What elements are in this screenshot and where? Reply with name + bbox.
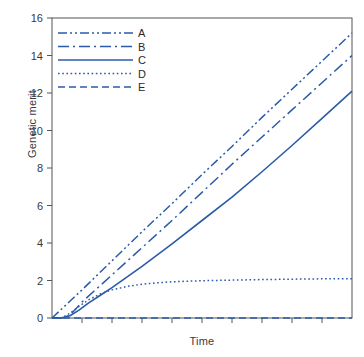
legend-label-B: B bbox=[138, 41, 145, 53]
y-tick-label: 16 bbox=[31, 12, 43, 24]
chart-background bbox=[0, 0, 364, 357]
legend-label-A: A bbox=[138, 27, 146, 39]
chart-figure: 0246810121416 ABCDE Genetic merit Time bbox=[0, 0, 364, 357]
y-tick-label: 4 bbox=[37, 237, 43, 249]
x-axis-title: Time bbox=[52, 335, 352, 347]
legend-label-E: E bbox=[138, 81, 145, 93]
legend-label-C: C bbox=[138, 54, 146, 66]
line-chart: 0246810121416 ABCDE bbox=[0, 0, 364, 357]
legend-label-D: D bbox=[138, 68, 146, 80]
y-tick-label: 0 bbox=[37, 312, 43, 324]
y-axis-title: Genetic merit bbox=[26, 64, 38, 184]
y-tick-label: 6 bbox=[37, 200, 43, 212]
y-tick-label: 2 bbox=[37, 275, 43, 287]
y-tick-label: 14 bbox=[31, 50, 43, 62]
